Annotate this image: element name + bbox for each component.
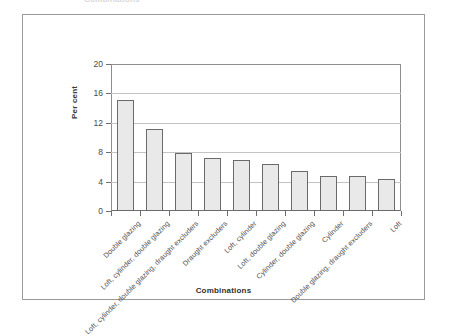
x-axis-title: Combinations	[23, 286, 424, 295]
bar	[117, 100, 134, 211]
bar	[233, 160, 250, 211]
x-axis-tick	[256, 211, 257, 216]
y-axis-tick-label: 8	[77, 147, 103, 157]
bar	[291, 171, 308, 211]
bar	[204, 158, 221, 211]
y-axis-tick-label: 4	[77, 177, 103, 187]
x-axis-tick-label: Loft	[388, 219, 403, 234]
x-axis-tick	[111, 211, 112, 216]
x-axis-tick-label: Loft, cylinder, double glazing, draught …	[83, 219, 200, 336]
y-axis-tick-label: 20	[77, 59, 103, 69]
figure-frame: Per cent 048121620 Double glazingLoft, c…	[22, 14, 425, 300]
plot-area-wrapper: Double glazingLoft, cylinder, double gla…	[111, 64, 401, 211]
bar	[320, 176, 337, 211]
x-axis-tick	[140, 211, 141, 216]
x-axis-tick	[343, 211, 344, 216]
y-axis-tick-label: 12	[77, 118, 103, 128]
x-axis-tick	[372, 211, 373, 216]
x-axis-tick	[314, 211, 315, 216]
bar	[378, 179, 395, 211]
y-axis-tick-label: 0	[77, 206, 103, 216]
x-axis-tick	[401, 211, 402, 216]
x-axis-tick	[285, 211, 286, 216]
bar	[175, 153, 192, 211]
x-axis-tick	[227, 211, 228, 216]
bar-series	[111, 64, 401, 211]
bar	[262, 164, 279, 211]
x-axis-tick-label: Cylinder	[319, 219, 345, 245]
y-axis-tick-label: 16	[77, 88, 103, 98]
bar	[146, 129, 163, 211]
x-axis-tick	[198, 211, 199, 216]
x-axis-tick-label: Cylinder, double glazing	[254, 219, 316, 281]
cut-off-top-caption: Combinations	[84, 0, 140, 3]
bar	[349, 176, 366, 211]
x-axis-tick	[169, 211, 170, 216]
